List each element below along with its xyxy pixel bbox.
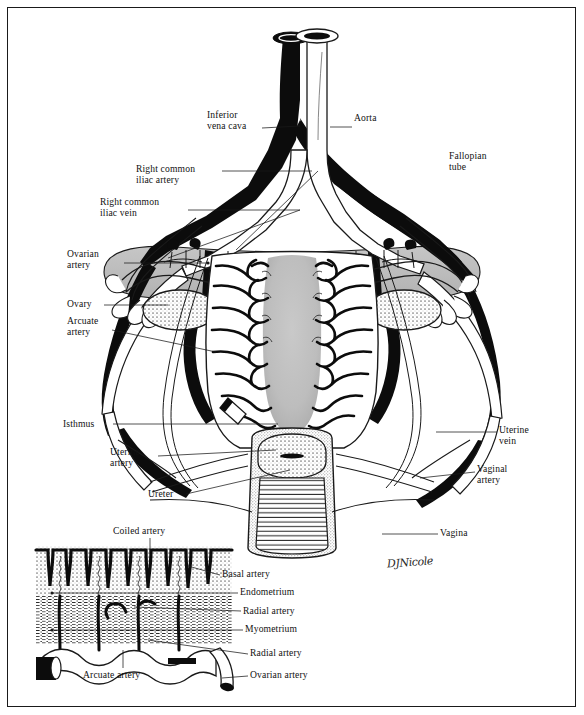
label-arcuate-artery: Arcuate artery (67, 316, 98, 337)
label-ovarian-artery-inset: Ovarian artery (250, 670, 308, 681)
label-arcuate-artery-inset: Arcuate artery (83, 670, 140, 681)
label-isthmus: Isthmus (63, 419, 94, 430)
label-right-common-iliac-artery: Right common iliac artery (136, 164, 195, 185)
label-radial-artery-lower: Radial artery (250, 648, 302, 659)
label-fallopian-tube: Fallopian tube (449, 151, 487, 172)
leader-rcia-pointer (236, 171, 318, 250)
label-endometrium: Endometrium (240, 587, 294, 598)
label-vagina: Vagina (440, 528, 468, 539)
figure-page: Inferior vena cava Aorta Right common il… (0, 0, 584, 715)
label-basal-artery: Basal artery (222, 569, 270, 580)
label-uterine-artery: Uterine artery (110, 447, 140, 468)
label-vaginal-artery: Vaginal artery (477, 464, 507, 485)
label-uterine-vein: Uterine vein (499, 425, 529, 446)
label-aorta: Aorta (354, 113, 377, 124)
label-myometrium: Myometrium (245, 624, 297, 635)
label-radial-artery-upper: Radial artery (243, 606, 295, 617)
label-coiled-artery: Coiled artery (113, 526, 165, 537)
label-right-common-iliac-vein: Right common iliac vein (100, 197, 159, 218)
cervix-and-vagina (248, 428, 336, 558)
label-inferior-vena-cava: Inferior vena cava (207, 110, 246, 131)
label-ovarian-artery: Ovarian artery (67, 249, 99, 270)
cervical-os (280, 453, 304, 458)
label-ovary: Ovary (67, 299, 92, 310)
label-ureter: Ureter (148, 489, 173, 500)
